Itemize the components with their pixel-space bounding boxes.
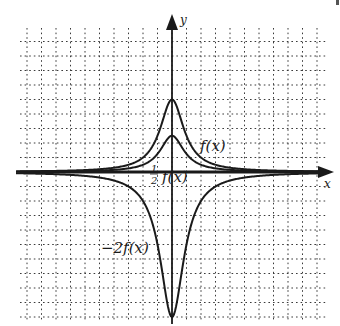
label-half-denominator: 2 [150, 175, 157, 186]
y-axis-arrow-icon [166, 14, 178, 30]
label-neg2f: −2f(x) [101, 239, 149, 257]
label-f: f(x) [199, 137, 226, 155]
curve-neg2f [16, 173, 320, 317]
label-half-f: f(x) [161, 168, 188, 186]
curves [16, 100, 320, 318]
curve-f [16, 100, 320, 172]
graph: x y f(x) 1 2 f(x) −2f(x) [0, 0, 340, 326]
x-axis-label: x [324, 177, 331, 191]
scan-artifact [336, 0, 339, 5]
label-half-numerator: 1 [151, 163, 157, 174]
y-axis-label: y [179, 13, 187, 27]
curve-half-f [16, 136, 320, 172]
